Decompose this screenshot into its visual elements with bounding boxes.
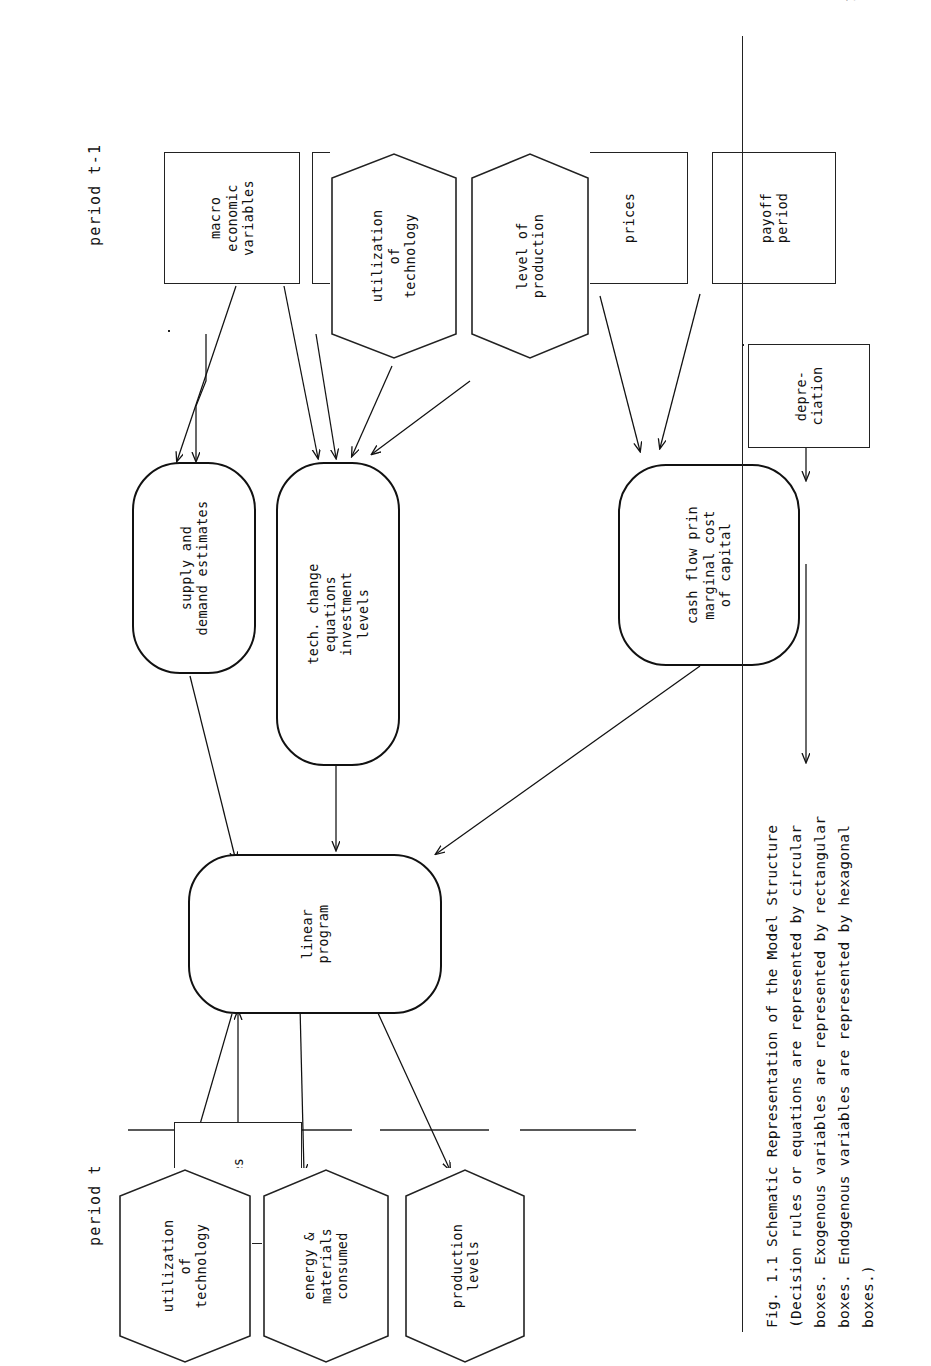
- node-linear-program[interactable]: linear program: [188, 854, 442, 1014]
- node-label: linear program: [299, 905, 332, 964]
- node-utilization-of-technology-output[interactable]: utilization of technology: [118, 1168, 252, 1364]
- node-label: utilization of technology: [160, 1220, 210, 1313]
- node-label: macro economic variables: [207, 180, 257, 256]
- node-level-of-production[interactable]: level of production: [470, 152, 590, 360]
- node-label: production levels: [449, 1224, 482, 1308]
- figure-diagram: period t-1 period t supply and demand es…: [0, 0, 931, 1366]
- node-energy-and-materials-consumed[interactable]: energy & materials consumed: [262, 1168, 390, 1364]
- node-utilization-of-technology-input[interactable]: utilization of technology: [330, 152, 458, 360]
- node-prices-input-left[interactable]: [168, 330, 170, 332]
- node-label: tech. change equations investment levels: [305, 563, 371, 664]
- node-macro-economic-variables[interactable]: macro economic variables: [164, 152, 300, 284]
- node-label: energy & materials consumed: [301, 1228, 351, 1304]
- node-label: cash flow prin marginal cost of capital: [684, 506, 734, 624]
- node-label: level of production: [514, 214, 547, 298]
- period-label-previous: period t-1: [86, 144, 104, 246]
- figure-caption: Fig. 1.1 Schematic Representation of the…: [760, 38, 880, 1328]
- node-tech-change-equations[interactable]: tech. change equations investment levels: [276, 462, 400, 766]
- node-supply-and-demand-estimates[interactable]: supply and demand estimates: [132, 462, 256, 674]
- node-label: supply and demand estimates: [178, 501, 211, 636]
- node-production-levels[interactable]: production levels: [404, 1168, 526, 1364]
- period-label-current: period t: [86, 1164, 104, 1246]
- caption-rule: [742, 36, 743, 1332]
- node-label: prices: [621, 193, 638, 244]
- node-label: utilization of technology: [369, 210, 419, 303]
